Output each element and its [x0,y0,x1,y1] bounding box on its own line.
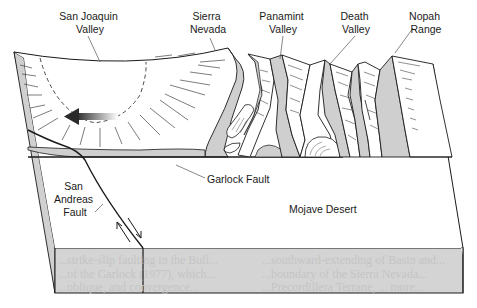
label-panamint-valley: Panamint Valley [259,10,306,35]
svg-text:...of the Garlock (1977), whic: ...of the Garlock (1977), which... [58,267,216,281]
label-sierra-nevada: Sierra Nevada [190,10,226,35]
label-death-valley: Death Valley [341,10,372,35]
svg-text:...boundary of the Sierra Neva: ...boundary of the Sierra Nevada... [262,267,427,281]
label-mojave-desert: Mojave Desert [289,203,357,215]
geologic-block-diagram: ...strike-slip faulting in the Bull... .… [0,0,477,308]
svg-text:...strike-slip faulting in the: ...strike-slip faulting in the Bull... [58,253,218,267]
svg-text:...Precordillera Terrane, ...: ...Precordillera Terrane, ... more... [262,280,424,294]
label-nopah-range: Nopah Range [409,10,443,35]
label-san-joaquin-valley: San Joaquin Valley [59,10,120,35]
svg-text:...oblique, and convergence...: ...oblique, and convergence... [58,280,199,294]
label-garlock-fault: Garlock Fault [207,173,270,185]
svg-text:...southward-extending of Basi: ...southward-extending of Basin and... [262,253,445,267]
